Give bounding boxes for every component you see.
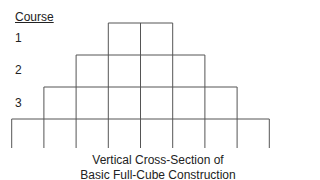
caption-line-2: Basic Full-Cube Construction xyxy=(60,168,256,180)
caption-line-1: Vertical Cross-Section of xyxy=(60,153,256,167)
